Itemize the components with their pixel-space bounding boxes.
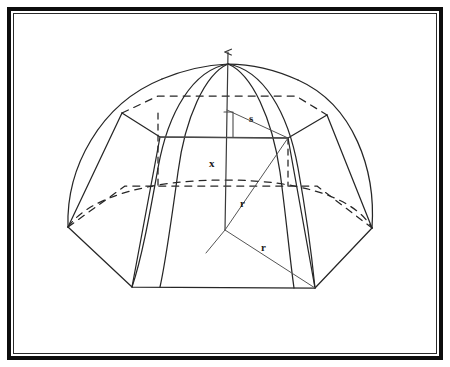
label-s: s	[249, 113, 253, 124]
right-angle-marker	[224, 112, 233, 137]
vertical-axis	[225, 52, 228, 230]
meridian-arc-left-inner	[160, 64, 228, 287]
upper-hexagon-front	[122, 113, 327, 138]
dome-outline-top-arc	[162, 64, 298, 80]
segment-s	[227, 110, 288, 138]
label-x: x	[209, 158, 215, 169]
meridian-arc-right	[228, 64, 315, 288]
meridian-arc-left	[132, 64, 228, 287]
meridian-arc-right-inner	[228, 64, 294, 288]
base-hexagon-back-dashed	[68, 186, 372, 228]
center-to-base-front-left	[206, 230, 225, 253]
segment-r-lower	[225, 230, 315, 288]
horizontal-chord	[160, 137, 288, 138]
geometry-canvas	[0, 0, 450, 367]
side-edge-front-left	[132, 137, 160, 287]
side-edge-left	[68, 113, 122, 227]
side-edge-front-right	[288, 138, 315, 288]
dome-rim-back-dashed	[68, 180, 372, 228]
label-r-lower: r	[261, 242, 266, 253]
diagram-page: s x r r	[0, 0, 450, 367]
label-r-upper: r	[240, 198, 245, 209]
dome-outline-right-arc	[298, 80, 372, 228]
